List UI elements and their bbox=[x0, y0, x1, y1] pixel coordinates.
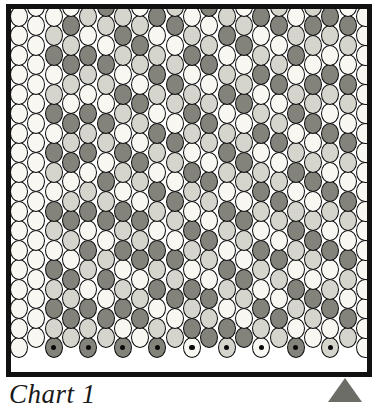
bead bbox=[11, 103, 28, 124]
bead bbox=[148, 318, 166, 339]
bead bbox=[252, 103, 270, 124]
bead bbox=[252, 9, 270, 27]
bead bbox=[131, 9, 149, 17]
bead bbox=[339, 152, 357, 173]
bead bbox=[200, 191, 218, 212]
bead bbox=[97, 288, 115, 309]
bead bbox=[131, 93, 149, 114]
bead bbox=[304, 152, 322, 173]
bead bbox=[11, 181, 28, 202]
bead bbox=[252, 84, 270, 105]
bead bbox=[166, 113, 184, 134]
bead bbox=[79, 45, 97, 66]
bead bbox=[148, 259, 166, 280]
bead bbox=[304, 210, 322, 231]
bead-center-dot bbox=[155, 345, 160, 350]
bead bbox=[200, 35, 218, 56]
bead bbox=[252, 298, 270, 319]
bead bbox=[27, 132, 45, 153]
bead bbox=[304, 113, 322, 134]
bead bbox=[97, 74, 115, 95]
bead bbox=[339, 74, 357, 95]
bead bbox=[235, 74, 253, 95]
bead bbox=[304, 308, 322, 329]
bead bbox=[321, 279, 339, 300]
bead bbox=[270, 288, 288, 309]
bead bbox=[235, 210, 253, 231]
bead bbox=[131, 210, 149, 231]
bead bbox=[62, 191, 80, 212]
bead bbox=[166, 171, 184, 192]
bead bbox=[270, 93, 288, 114]
bead bbox=[339, 288, 357, 309]
bead bbox=[148, 298, 166, 319]
bead bbox=[114, 259, 132, 280]
bead bbox=[218, 181, 236, 202]
bead bbox=[287, 9, 305, 27]
bead bbox=[321, 25, 339, 46]
bead bbox=[183, 64, 201, 85]
bead bbox=[183, 201, 201, 222]
bead bbox=[304, 249, 322, 270]
bead bbox=[11, 318, 28, 339]
bead bbox=[339, 191, 357, 212]
bead bbox=[148, 201, 166, 222]
bead bbox=[97, 54, 115, 75]
bead bbox=[287, 220, 305, 241]
bead bbox=[304, 327, 322, 348]
bead bbox=[304, 35, 322, 56]
bead bbox=[148, 123, 166, 144]
bead bbox=[131, 74, 149, 95]
bead bbox=[62, 74, 80, 95]
bead-center-dot bbox=[120, 345, 125, 350]
bead bbox=[27, 9, 45, 17]
bead bbox=[183, 142, 201, 163]
bead bbox=[166, 54, 184, 75]
bead bbox=[218, 103, 236, 124]
bead bbox=[131, 288, 149, 309]
bead bbox=[45, 45, 63, 66]
bead bbox=[166, 327, 184, 348]
bead bbox=[131, 132, 149, 153]
bead bbox=[321, 298, 339, 319]
bead bbox=[27, 191, 45, 212]
bead bbox=[62, 54, 80, 75]
bead-center-dot bbox=[293, 345, 298, 350]
bead bbox=[339, 132, 357, 153]
bead bbox=[270, 152, 288, 173]
bead bbox=[321, 337, 339, 358]
bead bbox=[270, 269, 288, 290]
bead bbox=[321, 201, 339, 222]
bead bbox=[131, 249, 149, 270]
bead bbox=[45, 103, 63, 124]
bead bbox=[131, 35, 149, 56]
bead bbox=[235, 93, 253, 114]
bead bbox=[166, 288, 184, 309]
bead bbox=[79, 103, 97, 124]
bead bbox=[114, 240, 132, 261]
bead bbox=[148, 181, 166, 202]
bead bbox=[252, 123, 270, 144]
bead bbox=[97, 152, 115, 173]
bead bbox=[11, 337, 28, 358]
bead bbox=[321, 318, 339, 339]
bead bbox=[79, 9, 97, 27]
bead bbox=[183, 162, 201, 183]
bead bbox=[62, 35, 80, 56]
bead bbox=[148, 9, 166, 27]
bead bbox=[79, 162, 97, 183]
bead bbox=[321, 64, 339, 85]
bead bbox=[166, 152, 184, 173]
bead bbox=[183, 240, 201, 261]
bead bbox=[45, 9, 63, 27]
bead bbox=[148, 142, 166, 163]
bead bbox=[304, 230, 322, 251]
bead bbox=[166, 249, 184, 270]
bead bbox=[97, 249, 115, 270]
bead bbox=[183, 337, 201, 358]
bead bbox=[339, 308, 357, 329]
bead bbox=[321, 142, 339, 163]
bead bbox=[166, 35, 184, 56]
bead bbox=[287, 337, 305, 358]
bead bbox=[79, 298, 97, 319]
